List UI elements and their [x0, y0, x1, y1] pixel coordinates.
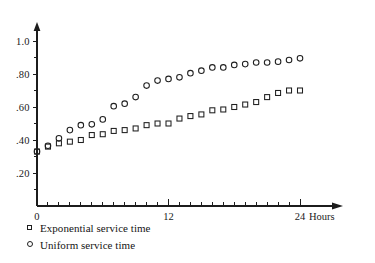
data-point-square	[155, 121, 160, 126]
series-uniform	[34, 56, 303, 155]
data-point-circle	[231, 62, 237, 68]
data-point-square	[177, 116, 182, 121]
data-point-circle	[67, 127, 73, 133]
data-point-square	[89, 133, 94, 138]
data-point-circle	[111, 103, 117, 109]
data-point-circle	[220, 65, 226, 71]
data-point-square	[133, 126, 138, 131]
data-point-square	[221, 107, 226, 112]
x-axis-arrow-icon	[332, 203, 343, 210]
series-exponential	[35, 88, 303, 154]
data-point-square	[232, 105, 237, 110]
circle-marker-icon	[26, 239, 35, 250]
data-point-circle	[275, 59, 281, 65]
legend-item-exponential: Exponential service time	[26, 219, 346, 236]
square-marker-icon	[26, 222, 35, 233]
data-point-circle	[177, 75, 183, 81]
data-point-circle	[264, 60, 270, 66]
data-point-square	[67, 139, 72, 144]
y-axis-tick-label: .40	[16, 135, 29, 146]
data-point-circle	[210, 65, 216, 71]
data-point-square	[111, 128, 116, 133]
data-point-circle	[133, 94, 139, 100]
y-axis-tick-label: .80	[16, 69, 29, 80]
scatter-chart: 1.0.80.60.40.2001224Hours Exponential se…	[0, 0, 375, 263]
data-point-square	[78, 138, 83, 143]
data-point-square	[199, 112, 204, 117]
legend-label-exponential: Exponential service time	[40, 222, 151, 234]
data-point-square	[265, 95, 270, 100]
data-point-circle	[188, 70, 194, 76]
data-point-circle	[242, 61, 248, 67]
data-point-square	[122, 128, 127, 133]
data-point-square	[144, 123, 149, 128]
legend-item-uniform: Uniform service time	[26, 236, 346, 253]
data-point-circle	[78, 122, 84, 128]
data-point-square	[276, 90, 281, 95]
data-point-circle	[297, 56, 303, 62]
data-point-square	[188, 114, 193, 119]
data-point-circle	[155, 78, 161, 84]
data-point-square	[166, 121, 171, 126]
data-point-circle	[89, 122, 95, 128]
y-axis-arrow-icon	[34, 22, 41, 31]
data-point-circle	[144, 83, 150, 89]
data-point-circle	[166, 76, 172, 82]
data-point-circle	[100, 117, 106, 123]
chart-legend: Exponential service time Uniform service…	[26, 219, 346, 253]
data-point-square	[287, 88, 292, 93]
data-point-circle	[122, 101, 128, 107]
y-axis-tick-label: .20	[16, 168, 29, 179]
data-point-square	[298, 88, 303, 93]
data-point-square	[210, 108, 215, 113]
data-point-circle	[253, 60, 259, 66]
data-point-circle	[199, 68, 205, 74]
legend-label-uniform: Uniform service time	[40, 239, 135, 251]
data-point-square	[100, 132, 105, 137]
y-axis-tick-label: 1.0	[16, 36, 29, 47]
data-point-square	[254, 100, 259, 105]
y-axis-tick-label: .60	[16, 102, 29, 113]
data-point-circle	[286, 57, 292, 63]
data-point-square	[243, 102, 248, 107]
